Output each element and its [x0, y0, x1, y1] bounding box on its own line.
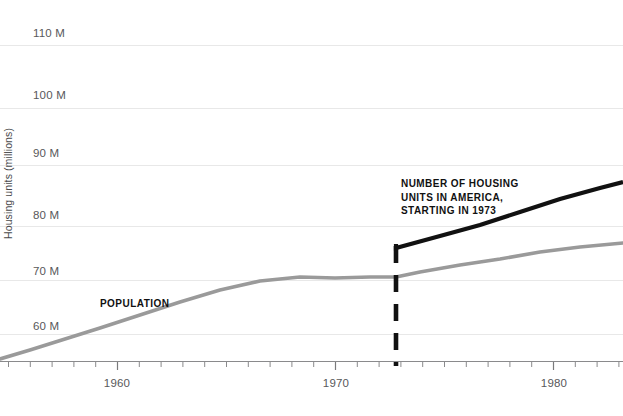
housing-units-series-label: NUMBER OF HOUSING UNITS IN AMERICA, STAR…: [401, 177, 533, 218]
population-series-label: POPULATION: [100, 297, 169, 311]
x-tick-label-1960: 1960: [104, 377, 130, 389]
chart-container: Housing units (millions) 110 M 100 M 90 …: [0, 0, 623, 416]
x-tick-label-1970: 1970: [323, 377, 349, 389]
x-tick-label-1980: 1980: [541, 377, 567, 389]
plot-area: Housing units (millions) 110 M 100 M 90 …: [0, 0, 623, 416]
x-axis-minor-ticks: [9, 362, 619, 367]
series-population-line: [0, 243, 623, 359]
